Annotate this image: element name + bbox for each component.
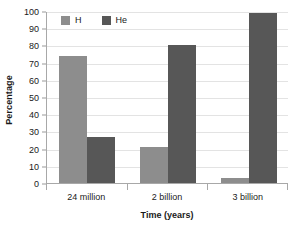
plot-area: H He — [46, 12, 288, 184]
legend-swatch-he — [102, 16, 111, 25]
y-tick-label: 60 — [29, 76, 39, 86]
bar-h-0 — [59, 56, 87, 183]
y-tick-label: 10 — [29, 162, 39, 172]
x-tick-mark — [127, 184, 128, 190]
bar-he-2 — [249, 13, 277, 183]
y-tick-label: 80 — [29, 41, 39, 51]
y-tick-label: 70 — [29, 59, 39, 69]
y-tick-label: 0 — [34, 179, 39, 189]
x-axis-ticks — [46, 184, 288, 191]
chart-legend: H He — [61, 16, 127, 25]
bar-chart: Percentage 0102030405060708090100 H He 2… — [0, 0, 295, 236]
legend-label-h: H — [75, 16, 82, 25]
y-tick-label: 40 — [29, 110, 39, 120]
y-tick-label: 50 — [29, 93, 39, 103]
x-tick-label: 3 billion — [232, 192, 263, 202]
x-tick-label: 24 million — [67, 192, 105, 202]
bars-layer — [47, 12, 288, 183]
legend-swatch-h — [61, 16, 70, 25]
y-tick-label: 90 — [29, 24, 39, 34]
bar-h-2 — [221, 178, 249, 183]
x-tick-label: 2 billion — [152, 192, 183, 202]
legend-item-he: He — [102, 16, 128, 25]
y-axis-title: Percentage — [0, 0, 18, 200]
legend-item-h: H — [61, 16, 82, 25]
y-tick-label: 100 — [24, 7, 39, 17]
y-tick-label: 20 — [29, 145, 39, 155]
bar-he-1 — [168, 45, 196, 183]
y-tick-label: 30 — [29, 127, 39, 137]
bar-he-0 — [87, 137, 115, 183]
x-tick-mark — [46, 184, 47, 190]
bar-h-1 — [140, 147, 168, 183]
y-axis-tick-labels: 0102030405060708090100 — [18, 12, 42, 184]
x-axis-title: Time (years) — [46, 210, 288, 220]
x-tick-mark — [287, 184, 288, 190]
x-tick-mark — [207, 184, 208, 190]
legend-label-he: He — [116, 16, 128, 25]
x-axis-tick-labels: 24 million2 billion3 billion — [46, 192, 288, 206]
y-axis-title-label: Percentage — [4, 75, 14, 125]
